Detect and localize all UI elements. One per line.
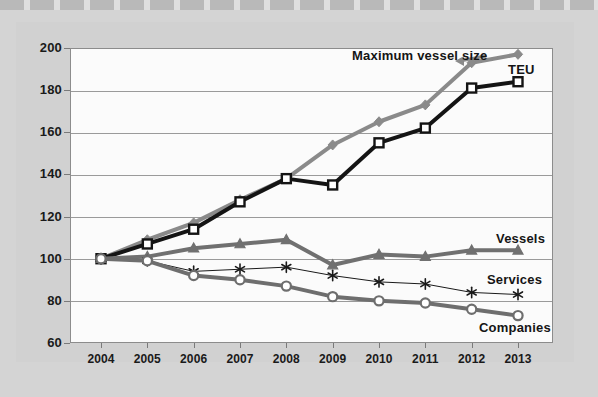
datapoint-teu-2012 <box>467 84 476 93</box>
x-axis-tick-mark-2010 <box>379 343 380 348</box>
series-label-vessels: Vessels <box>496 231 545 246</box>
datapoint-teu-2009 <box>328 180 337 189</box>
datapoint-companies-2005 <box>143 256 152 265</box>
x-axis-tick-label-2005: 2005 <box>123 352 171 366</box>
x-axis-tick-mark-2013 <box>518 343 519 348</box>
scan-top-band-texture <box>0 0 598 10</box>
y-axis-tick-label-60: 60 <box>18 335 62 350</box>
x-axis-tick-mark-2012 <box>472 343 473 348</box>
datapoint-companies-2009 <box>328 292 337 301</box>
x-axis-tick-label-2004: 2004 <box>77 352 125 366</box>
x-axis-tick-mark-2005 <box>147 343 148 348</box>
datapoint-teu-2005 <box>143 239 152 248</box>
x-axis-tick-label-2009: 2009 <box>309 352 357 366</box>
y-axis-tick-label-120: 120 <box>18 209 62 224</box>
datapoint-companies-2012 <box>467 305 476 314</box>
x-axis-tick-mark-2011 <box>425 343 426 348</box>
series-label-teu: TEU <box>508 62 535 77</box>
y-axis-tick-label-200: 200 <box>18 40 62 55</box>
x-axis-tick-label-2007: 2007 <box>216 352 264 366</box>
y-axis-tick-label-100: 100 <box>18 251 62 266</box>
datapoint-teu-2007 <box>236 197 245 206</box>
x-axis-tick-mark-2007 <box>240 343 241 348</box>
datapoint-teu-2006 <box>189 225 198 234</box>
datapoint-teu-2011 <box>421 124 430 133</box>
datapoint-teu-2010 <box>375 138 384 147</box>
figure-screenshot: 6080100120140160180200200420052006200720… <box>0 0 598 397</box>
scan-top-band <box>0 0 598 10</box>
x-axis-tick-mark-2006 <box>194 343 195 348</box>
datapoint-teu-2013 <box>514 77 523 86</box>
x-axis-tick-label-2011: 2011 <box>401 352 449 366</box>
datapoint-teu-2008 <box>282 174 291 183</box>
datapoint-maximum-vessel-size-2013 <box>513 49 522 59</box>
datapoint-companies-2004 <box>96 254 105 263</box>
y-axis-tick-label-80: 80 <box>18 293 62 308</box>
x-axis-tick-mark-2009 <box>333 343 334 348</box>
datapoint-companies-2013 <box>513 311 522 320</box>
datapoint-companies-2008 <box>282 282 291 291</box>
x-axis-tick-label-2010: 2010 <box>355 352 403 366</box>
x-axis-tick-label-2013: 2013 <box>494 352 542 366</box>
series-label-services: Services <box>487 272 542 287</box>
x-axis-tick-label-2006: 2006 <box>170 352 218 366</box>
series-companies <box>96 254 522 320</box>
x-axis-tick-mark-2008 <box>286 343 287 348</box>
x-axis-tick-label-2012: 2012 <box>448 352 496 366</box>
datapoint-companies-2010 <box>374 296 383 305</box>
chart-lines <box>70 48 553 343</box>
series-maximum-vessel-size <box>96 49 522 263</box>
series-label-companies: Companies <box>479 320 551 335</box>
x-axis-tick-mark-2004 <box>101 343 102 348</box>
y-axis-tick-label-160: 160 <box>18 124 62 139</box>
datapoint-companies-2011 <box>421 298 430 307</box>
y-axis-tick-label-140: 140 <box>18 166 62 181</box>
y-axis-tick-mark-60 <box>64 343 70 344</box>
datapoint-companies-2006 <box>189 271 198 280</box>
series-label-maximum-vessel-size: Maximum vessel size <box>352 48 487 63</box>
x-axis-tick-label-2008: 2008 <box>262 352 310 366</box>
y-axis-tick-label-180: 180 <box>18 82 62 97</box>
datapoint-companies-2007 <box>235 275 244 284</box>
